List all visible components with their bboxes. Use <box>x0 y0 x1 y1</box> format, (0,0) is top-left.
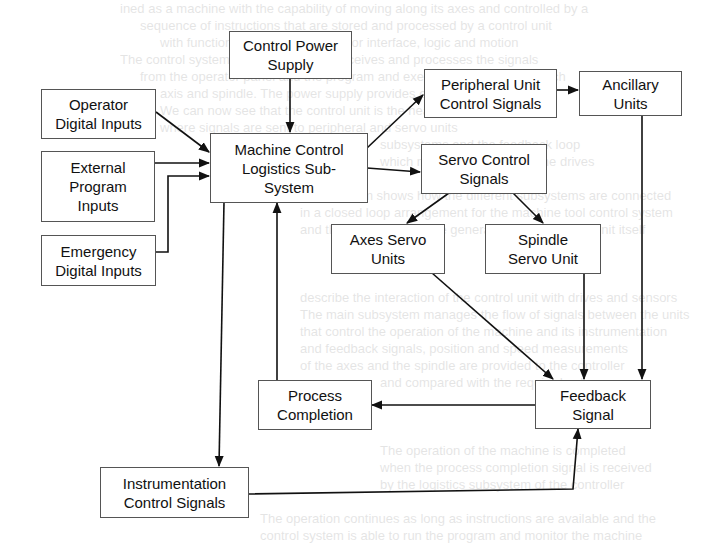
node-label-line: Peripheral Unit <box>440 75 542 94</box>
node-external-program-inputs: ExternalProgramInputs <box>41 151 155 222</box>
node-label-line: Control Signals <box>123 493 226 512</box>
node-label-line: System <box>234 178 343 197</box>
node-label-line: Ancillary <box>602 75 659 94</box>
node-label-line: Machine Control <box>234 140 343 159</box>
node-label-line: Servo Control <box>438 150 530 169</box>
node-label-line: Program <box>69 177 127 196</box>
arrow-axes-to-feedback <box>432 273 553 379</box>
node-label-line: Supply <box>243 55 338 74</box>
node-label-line: Signals <box>438 169 530 188</box>
node-label-line: Units <box>350 249 427 268</box>
node-process-completion: ProcessCompletion <box>258 380 372 430</box>
node-operator-digital-inputs: OperatorDigital Inputs <box>41 89 156 139</box>
node-axes-servo-units: Axes ServoUnits <box>331 224 445 274</box>
node-label-line: Instrumentation <box>123 474 226 493</box>
arrow-instrumentation-to-feedback <box>248 429 578 494</box>
node-label-line: Feedback <box>560 386 626 405</box>
arrow-mc-to-peripheral <box>367 95 423 148</box>
node-label-line: Axes Servo <box>350 230 427 249</box>
node-label-line: Inputs <box>69 196 127 215</box>
node-label-line: Emergency <box>55 242 142 261</box>
node-label-line: Digital Inputs <box>55 114 142 133</box>
node-machine-control-logistics: Machine ControlLogistics Sub-System <box>210 133 368 203</box>
arrow-servo-to-axes <box>407 193 449 223</box>
node-label-line: Process <box>277 386 353 405</box>
node-label-line: Control Signals <box>440 94 542 113</box>
arrow-servo-to-spindle <box>513 193 543 223</box>
node-emergency-digital-inputs: EmergencyDigital Inputs <box>41 235 156 286</box>
node-label-line: Spindle <box>508 230 578 249</box>
arrow-emergency-to-mc <box>155 176 209 252</box>
node-label-line: Logistics Sub- <box>234 159 343 178</box>
node-label-line: Operator <box>55 95 142 114</box>
node-peripheral-unit-control-signals: Peripheral UnitControl Signals <box>424 69 557 118</box>
arrow-mc-to-servo <box>367 168 420 172</box>
arrow-operator-to-mc <box>156 112 209 152</box>
node-label-line: External <box>69 158 127 177</box>
node-label-line: Units <box>602 94 659 113</box>
arrow-mc-to-instrumentation <box>219 202 224 466</box>
node-label-line: Digital Inputs <box>55 261 142 280</box>
node-servo-control-signals: Servo ControlSignals <box>421 144 547 194</box>
node-spindle-servo-unit: SpindleServo Unit <box>485 224 601 274</box>
node-feedback-signal: FeedbackSignal <box>535 380 651 429</box>
node-control-power-supply: Control PowerSupply <box>229 31 352 79</box>
node-label-line: Control Power <box>243 36 338 55</box>
node-label-line: Servo Unit <box>508 249 578 268</box>
node-label-line: Signal <box>560 405 626 424</box>
node-label-line: Completion <box>277 405 353 424</box>
node-ancillary-units: AncillaryUnits <box>579 71 682 116</box>
node-instrumentation-control-signals: InstrumentationControl Signals <box>100 467 249 518</box>
